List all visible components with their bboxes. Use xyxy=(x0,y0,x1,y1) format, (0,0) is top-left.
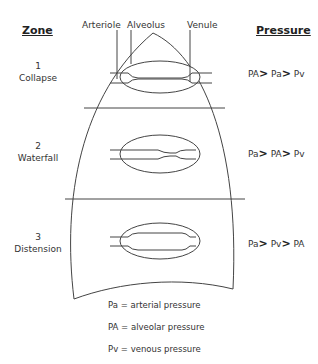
zone-3-capillary xyxy=(110,223,200,259)
zone-2-pressure: Pa> PA> Pv xyxy=(248,147,305,160)
zone-1-label: 1 Collapse xyxy=(3,60,73,84)
zone-3-label: 3 Distension xyxy=(3,231,73,255)
arteriole-label: Arteriole xyxy=(82,20,121,31)
zone-1-name: Collapse xyxy=(3,72,73,84)
zone-3-pressure: Pa> Pv> PA xyxy=(248,237,305,250)
zone-2-label: 2 Waterfall xyxy=(3,140,73,164)
zone-header: Zone xyxy=(22,24,53,37)
legend-venous: Pv = venous pressure xyxy=(108,344,201,354)
zone-3-name: Distension xyxy=(3,243,73,255)
zone-2-number: 2 xyxy=(3,140,73,152)
zone-1-number: 1 xyxy=(3,60,73,72)
legend-alveolar: PA = alveolar pressure xyxy=(108,322,204,332)
zone-1-pressure: PA> Pa> Pv xyxy=(248,67,305,80)
legend-arterial: Pa = arterial pressure xyxy=(108,300,201,310)
pressure-header: Pressure xyxy=(256,24,311,37)
venule-label: Venule xyxy=(187,20,217,31)
zone-2-name: Waterfall xyxy=(3,152,73,164)
alveolus-label: Alveolus xyxy=(127,20,165,31)
zone-2-capillary xyxy=(110,135,200,173)
zone-3-number: 3 xyxy=(3,231,73,243)
